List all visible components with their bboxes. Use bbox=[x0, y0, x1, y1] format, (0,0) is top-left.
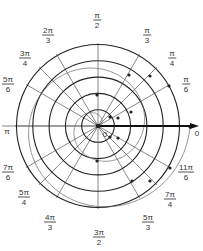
angle-label-5pi-4: 5π4 bbox=[18, 188, 30, 207]
angle-label-pi-3: π3 bbox=[143, 26, 151, 45]
ray-line bbox=[39, 126, 98, 185]
ray-line bbox=[98, 54, 140, 126]
angle-label-7pi-6: 7π6 bbox=[2, 163, 14, 182]
spiral-point bbox=[108, 115, 111, 118]
axis-end-label: 0 bbox=[195, 129, 199, 138]
angle-label-pi-4: π4 bbox=[168, 49, 176, 68]
ray-line bbox=[26, 126, 98, 168]
ray-line bbox=[39, 67, 98, 126]
spiral-point bbox=[130, 179, 133, 182]
spiral-point bbox=[95, 159, 98, 162]
spiral-point bbox=[95, 93, 98, 96]
polar-grid bbox=[0, 0, 203, 251]
spiral-point bbox=[116, 116, 119, 119]
angle-label-pi: π bbox=[4, 127, 10, 136]
angle-label-pi-2: π2 bbox=[93, 11, 101, 30]
ray-line bbox=[98, 67, 157, 126]
ray-line bbox=[26, 84, 98, 126]
ray-line bbox=[56, 126, 98, 198]
spiral-point bbox=[148, 74, 151, 77]
ray-line bbox=[56, 54, 98, 126]
angle-label-5pi-6: 5π6 bbox=[2, 75, 14, 94]
angle-label-3pi-2: 3π2 bbox=[93, 228, 105, 247]
spiral-point bbox=[129, 110, 132, 113]
origin-point bbox=[96, 124, 100, 128]
spiral-point bbox=[148, 179, 151, 182]
angle-label-11pi-6: 11π6 bbox=[178, 163, 194, 182]
spiral-point bbox=[127, 73, 130, 76]
spiral-point bbox=[116, 136, 119, 139]
angle-label-7pi-4: 7π4 bbox=[164, 190, 176, 209]
origin-label: 0 bbox=[103, 130, 107, 139]
angle-label-2pi-3: 2π3 bbox=[42, 26, 54, 45]
spiral-point bbox=[167, 84, 170, 87]
angle-label-3pi-4: 3π4 bbox=[19, 49, 31, 68]
spiral-point bbox=[108, 135, 111, 138]
spiral-point bbox=[168, 166, 171, 169]
angle-label-5pi-3: 5π3 bbox=[142, 213, 154, 232]
angle-label-4pi-3: 4π3 bbox=[44, 213, 56, 232]
angle-label-pi-6: π6 bbox=[182, 75, 190, 94]
ray-line bbox=[98, 84, 170, 126]
